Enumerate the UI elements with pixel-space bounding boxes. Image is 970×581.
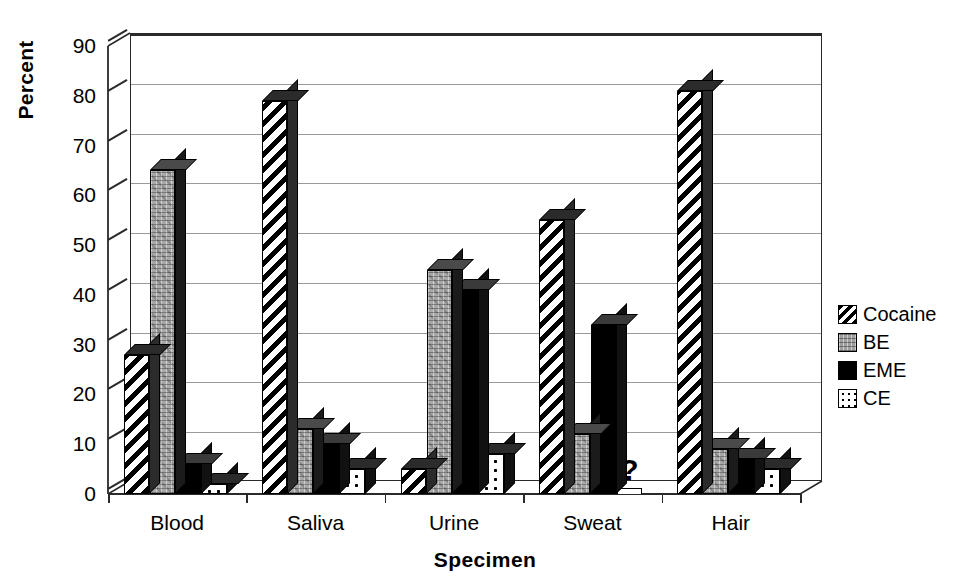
x-tick-mark [108, 494, 110, 503]
legend-swatch-cocaine-icon [838, 305, 857, 324]
x-tick-label-blood: Blood [108, 512, 246, 533]
x-tick-label-urine: Urine [385, 512, 523, 533]
bar-side-face [702, 69, 713, 494]
legend-item-be[interactable]: BE [838, 328, 966, 356]
bar-saliva-cocaine [262, 101, 287, 494]
x-tick-mark [523, 494, 525, 503]
x-tick-mark [662, 494, 664, 503]
bar-side-face [780, 447, 791, 494]
x-tick-label-hair: Hair [662, 512, 800, 533]
bar-side-face [365, 447, 376, 494]
legend-label: BE [863, 332, 890, 352]
legend-swatch-eme-icon [838, 361, 857, 380]
legend-item-eme[interactable]: EME [838, 356, 966, 384]
legend-label: EME [863, 360, 906, 380]
bar-side-face [478, 268, 489, 494]
bar-top-face [591, 314, 638, 325]
bar-top-face [427, 259, 474, 270]
legend-label: Cocaine [863, 304, 936, 324]
bar-top-face [677, 80, 724, 91]
bar-front-face [124, 355, 149, 494]
x-axis-title: Specimen [0, 548, 970, 572]
legend-swatch-ce-icon [838, 389, 857, 408]
bar-side-face [149, 333, 160, 494]
bar-side-face [175, 148, 186, 494]
bar-top-face [262, 90, 309, 101]
bar-blood-cocaine [124, 355, 149, 494]
bars-layer: ? [0, 0, 970, 581]
bar-side-face [452, 248, 463, 494]
legend-item-ce[interactable]: CE [838, 384, 966, 412]
legend-label: CE [863, 388, 891, 408]
bar-sweat-cocaine [539, 220, 564, 494]
x-tick-label-saliva: Saliva [246, 512, 384, 533]
bar-top-face [150, 159, 197, 170]
x-tick-mark [246, 494, 248, 503]
bar-urine-cocaine [401, 469, 426, 494]
bar-hair-cocaine [677, 91, 702, 494]
bar-chart: Percent 0102030405060708090 ? BloodSaliv… [0, 0, 970, 581]
bar-side-face [504, 432, 515, 494]
bar-top-face [539, 209, 586, 220]
chart-legend: CocaineBEEMECE [838, 300, 966, 412]
bar-side-face [564, 198, 575, 494]
bar-front-face [677, 91, 702, 494]
bar-side-face [287, 79, 298, 494]
legend-item-cocaine[interactable]: Cocaine [838, 300, 966, 328]
x-tick-label-sweat: Sweat [523, 512, 661, 533]
bar-front-face [401, 469, 426, 494]
legend-swatch-be-icon [838, 333, 857, 352]
bar-front-face [262, 101, 287, 494]
bar-front-face [539, 220, 564, 494]
bar-side-face [616, 303, 627, 494]
x-tick-mark [800, 494, 802, 503]
x-tick-mark [385, 494, 387, 503]
